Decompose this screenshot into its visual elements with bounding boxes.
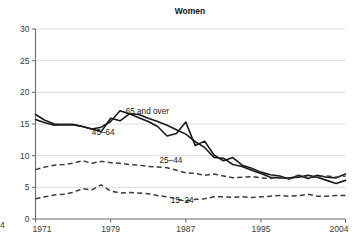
- y-tick-label-0: 0: [25, 214, 30, 224]
- x-tick-label-1979: 1979: [101, 224, 120, 234]
- y-tick-label-30: 30: [20, 24, 30, 34]
- x-tick-label-1987: 1987: [176, 224, 195, 234]
- series-label-15-24: 15–24: [171, 196, 194, 205]
- chart-title: Women: [175, 6, 206, 16]
- x-tick-label-2004: 2004: [330, 224, 349, 234]
- x-tick-label-1971: 1971: [33, 224, 52, 234]
- y-tick-label-20: 20: [20, 87, 30, 97]
- y-tick-label-10: 10: [20, 151, 30, 161]
- x-tick-label-1995: 1995: [251, 224, 270, 234]
- neighbor-panel-partial-tick-label: 4: [0, 220, 5, 230]
- y-tick-label-25: 25: [20, 56, 30, 66]
- line-chart-women: Women 051015202530 19711979198719952004 …: [0, 0, 360, 251]
- y-tick-label-15: 15: [20, 119, 30, 129]
- series-label-25-44: 25–44: [160, 156, 183, 165]
- series-label-45-64: 45–64: [92, 128, 115, 137]
- y-tick-label-5: 5: [25, 182, 30, 192]
- series-label-65-and-over: 65 and over: [126, 107, 170, 116]
- chart-panel-women: Women 051015202530 19711979198719952004 …: [0, 0, 360, 251]
